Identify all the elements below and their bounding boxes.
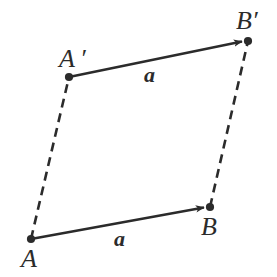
point-dot-B	[206, 203, 214, 211]
point-dot-A	[27, 235, 35, 243]
point-label-B-prime: B′	[236, 8, 258, 34]
point-dot-Aprime	[65, 73, 73, 81]
vector-diagram-canvas	[0, 0, 277, 277]
point-label-A-prime: A ′	[59, 46, 86, 72]
vector-translation-figure: A A ′ B B′ a a	[0, 0, 277, 277]
vector-label-a-bottom: a	[114, 228, 125, 250]
point-label-A: A	[21, 246, 37, 272]
vector-arrow-a-top	[69, 42, 242, 78]
connector-A-Aprime	[31, 77, 69, 239]
vector-label-a-top: a	[144, 64, 155, 86]
point-label-B: B	[201, 214, 217, 240]
point-dot-Bprime	[244, 37, 252, 45]
connector-B-Bprime	[210, 41, 248, 207]
